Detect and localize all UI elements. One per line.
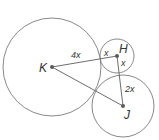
label-h: H [119, 42, 128, 56]
point-k [50, 65, 54, 69]
label-kh-4x: 4x [71, 50, 81, 60]
label-hj-2x: 2x [124, 84, 135, 94]
label-hj-x: x [120, 58, 126, 68]
label-k: K [39, 61, 48, 75]
tangent-circles-diagram: K H J 4x x x 2x [0, 0, 159, 140]
label-j: J [123, 108, 131, 122]
label-kh-x: x [103, 48, 109, 58]
